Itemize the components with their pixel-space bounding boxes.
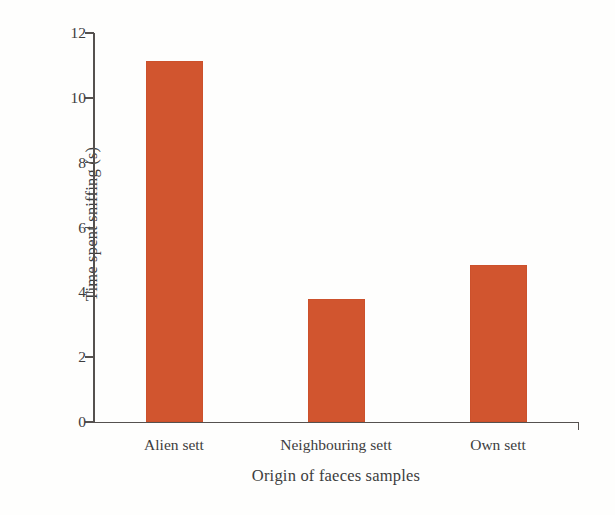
y-axis-tick-label: 0 — [52, 413, 86, 431]
plot-area — [93, 33, 579, 422]
x-axis-end-tick — [578, 422, 580, 430]
y-axis-tick-label: 8 — [52, 154, 86, 172]
bar-chart-figure: Time spent sniffing (s) 024681012 Alien … — [0, 0, 615, 515]
y-axis-tick-label: 2 — [52, 348, 86, 366]
bar — [308, 299, 365, 422]
bar — [146, 61, 203, 422]
bar — [470, 265, 527, 422]
y-axis-tick-label: 12 — [52, 24, 86, 42]
x-axis-tick-label: Own sett — [388, 436, 608, 454]
x-axis-title: Origin of faeces samples — [93, 466, 579, 486]
y-axis-tick-label: 10 — [52, 89, 86, 107]
y-axis-tick-label: 6 — [52, 219, 86, 237]
y-axis-tick-label: 4 — [52, 283, 86, 301]
